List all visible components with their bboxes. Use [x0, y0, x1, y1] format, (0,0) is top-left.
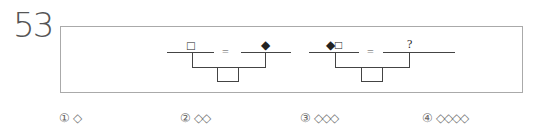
square-symbol: □: [187, 39, 195, 52]
choice-value: ◇◇◇◇: [436, 111, 468, 125]
right-line: [241, 52, 291, 53]
bracket-left: [192, 52, 193, 67]
bracket-right: [265, 52, 266, 67]
choice-3[interactable]: ③ ◇◇◇: [300, 111, 338, 126]
choice-marker: ①: [59, 111, 70, 125]
choice-4[interactable]: ④ ◇◇◇◇: [422, 111, 468, 126]
choice-value: ◇: [73, 111, 81, 125]
right-line: [383, 52, 455, 53]
question-box: [60, 26, 523, 93]
diamond-filled-icon: ◆: [261, 39, 270, 51]
left-line: [309, 52, 359, 53]
question-number: 53: [13, 8, 52, 42]
equals-sign: =: [367, 46, 374, 58]
choice-value: ◇◇◇: [314, 111, 338, 125]
empty-box: [217, 67, 239, 82]
empty-box: [361, 67, 383, 82]
equals-sign: =: [222, 46, 229, 58]
bracket-right: [409, 52, 410, 67]
choice-1[interactable]: ① ◇: [59, 111, 81, 126]
choice-marker: ④: [422, 111, 433, 125]
choice-marker: ③: [300, 111, 311, 125]
question-mark: ?: [407, 38, 412, 50]
choice-marker: ②: [180, 111, 191, 125]
diamond-square-symbols: ◆□: [326, 39, 342, 51]
choice-2[interactable]: ② ◇◇: [180, 111, 210, 126]
choice-value: ◇◇: [194, 111, 210, 125]
bracket-left: [335, 52, 336, 67]
